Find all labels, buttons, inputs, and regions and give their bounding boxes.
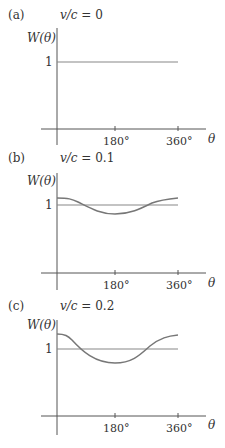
- plot-area-a: [0, 0, 225, 150]
- y-axis-label: W(θ): [27, 174, 56, 188]
- y-axis-label: W(θ): [27, 318, 56, 332]
- panel-title: v/c = 0.2: [60, 299, 114, 313]
- y-axis-label: W(θ): [27, 31, 56, 45]
- y-tick-1: 1: [45, 55, 53, 69]
- x-tick-180: 180°: [103, 422, 130, 435]
- panel-label: (c): [8, 299, 24, 313]
- x-axis-label: θ: [208, 132, 215, 146]
- w-curve: [57, 198, 178, 214]
- y-tick-1: 1: [45, 198, 53, 212]
- panel-label: (b): [8, 151, 25, 165]
- x-tick-360: 360°: [166, 279, 193, 292]
- panel-b: (b) v/c = 0.1 W(θ) 1 180° 360° θ: [0, 145, 225, 295]
- panel-title: v/c = 0.1: [60, 151, 114, 165]
- panel-title: v/c = 0: [60, 8, 103, 22]
- panel-c: (c) v/c = 0.2 W(θ) 1 180° 360° θ: [0, 295, 225, 445]
- panel-label: (a): [8, 8, 25, 22]
- y-tick-1: 1: [45, 342, 53, 356]
- x-tick-180: 180°: [103, 279, 130, 292]
- x-axis-label: θ: [208, 276, 215, 290]
- plot-area-b: [0, 145, 225, 295]
- x-tick-360: 360°: [166, 422, 193, 435]
- x-axis-label: θ: [208, 418, 215, 432]
- panel-a: (a) v/c = 0 W(θ) 1 180° 360° θ: [0, 0, 225, 150]
